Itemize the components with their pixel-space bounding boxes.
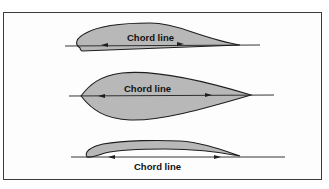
- chord-line-label-1: Chord line: [127, 32, 174, 43]
- undercambered-airfoil: Chord line: [71, 140, 285, 172]
- airfoil-diagram: Chord line Chord line Chord line: [0, 0, 329, 189]
- undercambered-airfoil-shape: [86, 140, 240, 157]
- arrow-left-icon: [108, 155, 115, 159]
- chord-line-label-2: Chord line: [124, 83, 171, 94]
- symmetrical-airfoil: Chord line: [69, 72, 274, 120]
- arrow-right-icon: [214, 155, 221, 159]
- chord-line-label-3: Chord line: [134, 161, 181, 172]
- cambered-airfoil: Chord line: [65, 23, 260, 51]
